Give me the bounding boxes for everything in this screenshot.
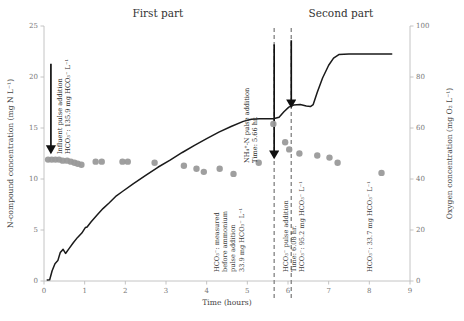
data-point <box>296 150 302 156</box>
x-tick-label: 1 <box>82 287 86 295</box>
y-tick-label-left: 5 <box>34 226 38 234</box>
bicarbonate-measured-annotation-line: pulse addition <box>229 224 237 272</box>
y-tick-label-left: 25 <box>29 22 38 30</box>
data-point <box>201 169 207 175</box>
bicarbonate-measured-annotation: HCO₃⁻: measuredbefore ammoniumpulse addi… <box>213 207 246 272</box>
y-axis-title-right: Oxygen concentration (mg O₂ L⁻¹) <box>445 88 454 220</box>
x-tick-label: 0 <box>42 287 46 295</box>
y-tick-label-right: 80 <box>416 73 425 81</box>
ammonium-pulse-annotation-line: Time: 5.66 hr. <box>251 116 259 163</box>
first-part-title: First part <box>132 7 184 19</box>
y-tick-label-left: 10 <box>29 175 38 183</box>
bicarbonate-pulse-annotation: HCO₃⁻ pulse additionTime: 6.08 hr.HCO₃⁻:… <box>282 181 306 272</box>
chart-svg: 01234567890510152025020406080100Time (ho… <box>0 0 464 321</box>
second-part-title: Second part <box>309 7 374 19</box>
data-point <box>92 158 98 164</box>
data-point <box>378 170 384 176</box>
bicarbonate-measured-annotation-line: before ammonium <box>221 210 229 272</box>
data-point <box>125 158 131 164</box>
x-tick-label: 3 <box>164 287 168 295</box>
x-tick-label: 8 <box>367 287 371 295</box>
bicarbonate-pulse-annotation-line: Time: 6.08 hr. <box>290 225 298 272</box>
data-point <box>314 152 320 158</box>
bicarbonate-final-annotation-line: HCO₃⁻: 33.7 mg HCO₃⁻ L⁻¹ <box>366 181 374 272</box>
x-axis-title: Time (hours) <box>202 298 251 307</box>
bicarbonate-final-annotation: HCO₃⁻: 33.7 mg HCO₃⁻ L⁻¹ <box>366 181 374 272</box>
bicarbonate-pulse-annotation-line: HCO₃⁻: 95.2 mg HCO₃⁻ L⁻¹ <box>298 181 306 272</box>
influent-pulse-annotation: Influent pulse additionHCO₃⁻: 135.9 mg H… <box>56 59 72 154</box>
influent-pulse-annotation-line: Influent pulse addition <box>56 77 64 154</box>
chart-figure: 01234567890510152025020406080100Time (ho… <box>0 0 464 321</box>
bicarbonate-measured-annotation-line: HCO₃⁻: measured <box>213 212 221 272</box>
y-tick-label-right: 60 <box>416 124 425 132</box>
bicarbonate-pulse-annotation-line: HCO₃⁻ pulse addition <box>282 199 290 272</box>
data-point <box>230 171 236 177</box>
x-tick-label: 2 <box>123 287 127 295</box>
data-point <box>270 121 276 127</box>
x-tick-label: 9 <box>408 287 412 295</box>
data-point <box>216 166 222 172</box>
x-tick-label: 4 <box>204 287 209 295</box>
ammonium-pulse-annotation: NH₄⁺-N pulse additionTime: 5.66 hr. <box>243 87 259 163</box>
y-tick-label-right: 20 <box>416 226 425 234</box>
influent-pulse-annotation-line: HCO₃⁻: 135.9 mg HCO₃⁻ L⁻¹ <box>64 59 72 154</box>
y-tick-label-left: 20 <box>29 73 38 81</box>
x-tick-label: 5 <box>245 287 249 295</box>
x-tick-label: 6 <box>286 287 291 295</box>
data-point <box>78 162 84 168</box>
y-axis-title-left: N-compound concentration (mg N L⁻¹) <box>6 79 15 228</box>
ammonium-pulse-annotation-line: NH₄⁺-N pulse addition <box>243 87 251 163</box>
data-point <box>151 159 157 165</box>
data-point <box>99 158 105 164</box>
y-tick-label-left: 0 <box>34 277 38 285</box>
y-tick-label-right: 0 <box>416 277 420 285</box>
data-point <box>282 139 288 145</box>
data-point <box>181 163 187 169</box>
x-tick-label: 7 <box>326 287 330 295</box>
y-tick-label-right: 100 <box>416 22 429 30</box>
data-point <box>193 166 199 172</box>
data-point <box>286 146 292 152</box>
data-point <box>334 159 340 165</box>
y-tick-label-right: 40 <box>416 175 425 183</box>
y-tick-label-left: 15 <box>29 124 38 132</box>
bicarbonate-measured-annotation-line: 33.9 mg HCO₃⁻ L⁻¹ <box>238 207 246 272</box>
data-point <box>326 154 332 160</box>
